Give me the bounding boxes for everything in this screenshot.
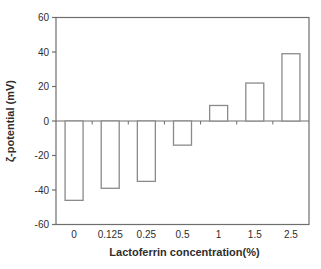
bar-0.125	[101, 121, 119, 188]
y-tick-label: 40	[38, 47, 50, 58]
bar-2.5	[282, 54, 300, 121]
y-tick-label: 60	[38, 12, 50, 23]
x-tick-label: 0	[71, 229, 77, 240]
y-tick-label: -60	[35, 219, 50, 230]
x-tick-label: 2.5	[284, 229, 298, 240]
x-tick-label: 0.25	[137, 229, 157, 240]
bar-0.25	[137, 121, 155, 181]
bar-0.5	[174, 121, 192, 145]
x-tick-label: 1	[216, 229, 222, 240]
y-tick-label: -20	[35, 150, 50, 161]
x-tick-label: 0.5	[176, 229, 190, 240]
bar-0	[65, 121, 83, 200]
x-axis-title: Lactoferrin concentration(%)	[58, 246, 311, 258]
y-tick-label: 0	[43, 116, 49, 127]
bar-1.5	[246, 83, 264, 121]
bar-1	[210, 105, 228, 121]
bar-chart-canvas: 6040200-20-40-6000.1250.250.511.52.5	[0, 0, 321, 269]
x-tick-label: 1.5	[248, 229, 262, 240]
y-tick-label: -40	[35, 185, 50, 196]
zeta-potential-figure: ζ-potential (mV) 6040200-20-40-6000.1250…	[0, 0, 321, 269]
y-tick-label: 20	[38, 81, 50, 92]
x-tick-label: 0.125	[98, 229, 123, 240]
